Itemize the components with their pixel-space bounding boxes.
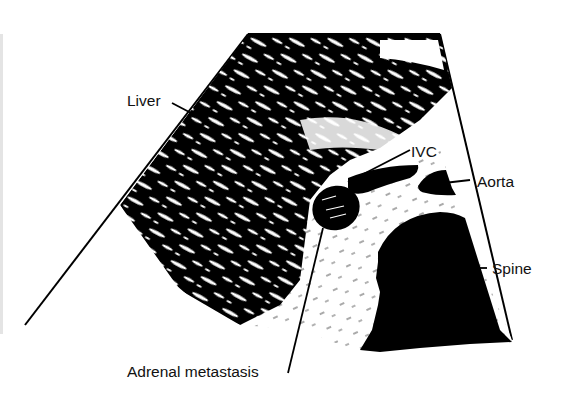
- label-adrenal-metastasis: Adrenal metastasis: [127, 364, 259, 380]
- label-ivc: IVC: [411, 144, 437, 160]
- label-spine: Spine: [492, 261, 532, 277]
- label-liver: Liver: [127, 93, 161, 109]
- ultrasound-diagram: [0, 0, 585, 417]
- label-aorta: Aorta: [477, 174, 514, 190]
